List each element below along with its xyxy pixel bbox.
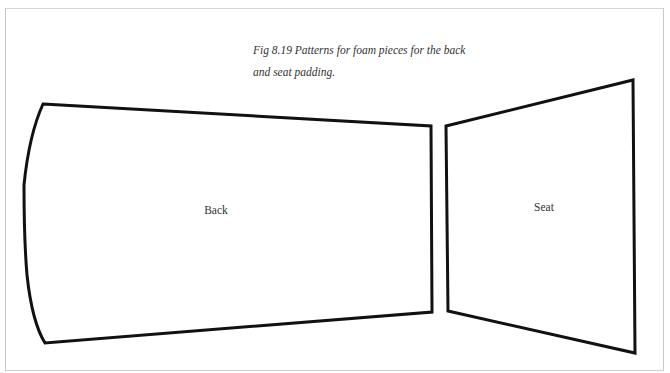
seat-label: Seat — [534, 201, 555, 213]
back-outline — [24, 104, 432, 343]
back-pattern-piece: Back — [24, 104, 432, 343]
seat-pattern-piece: Seat — [446, 80, 635, 353]
seat-outline — [446, 80, 635, 353]
pattern-diagram: Back Seat — [0, 0, 670, 373]
back-label: Back — [204, 204, 228, 216]
